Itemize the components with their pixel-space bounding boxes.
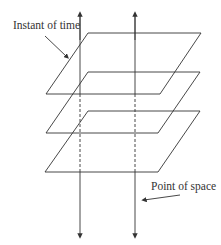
plane-3	[45, 111, 200, 172]
plane-2	[46, 72, 200, 133]
plane-1	[46, 33, 201, 94]
space-pointer-arrow	[144, 195, 180, 200]
point-of-space-label: Point of space	[151, 180, 216, 192]
instant-of-time-label: Instant of time	[13, 19, 80, 31]
instant-pointer-arrow	[45, 36, 67, 57]
spacetime-slices-diagram	[0, 0, 221, 245]
